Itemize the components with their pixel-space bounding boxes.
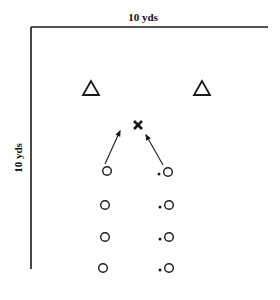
player-circle-icon [165, 233, 174, 242]
player-circle-icon [101, 201, 110, 210]
ball-dot-icon [159, 206, 162, 209]
player-circle-icon [165, 201, 174, 210]
side-distance-label: 10 yds [12, 142, 24, 172]
left-line-run-arrow-icon [105, 131, 120, 164]
run-arrows [105, 131, 163, 165]
left-line-players [99, 167, 112, 273]
right-line-run-arrow-icon [146, 135, 163, 165]
field-boundary [31, 27, 268, 269]
right-cone-triangle-icon [194, 81, 210, 95]
cones [83, 81, 210, 95]
player-circle-icon [164, 168, 173, 177]
left-cone-triangle-icon [83, 81, 99, 95]
drill-diagram: 10 yds 10 yds [0, 0, 280, 300]
player-circle-icon [165, 264, 174, 273]
top-distance-label: 10 yds [128, 11, 158, 23]
ball-dot-icon [159, 238, 162, 241]
ball-dot-icon [158, 173, 161, 176]
target-x-icon [134, 121, 142, 129]
player-circle-icon [103, 167, 112, 176]
ball-dot-icon [159, 269, 162, 272]
player-circle-icon [101, 233, 110, 242]
player-circle-icon [99, 264, 108, 273]
right-line-players [158, 168, 174, 273]
